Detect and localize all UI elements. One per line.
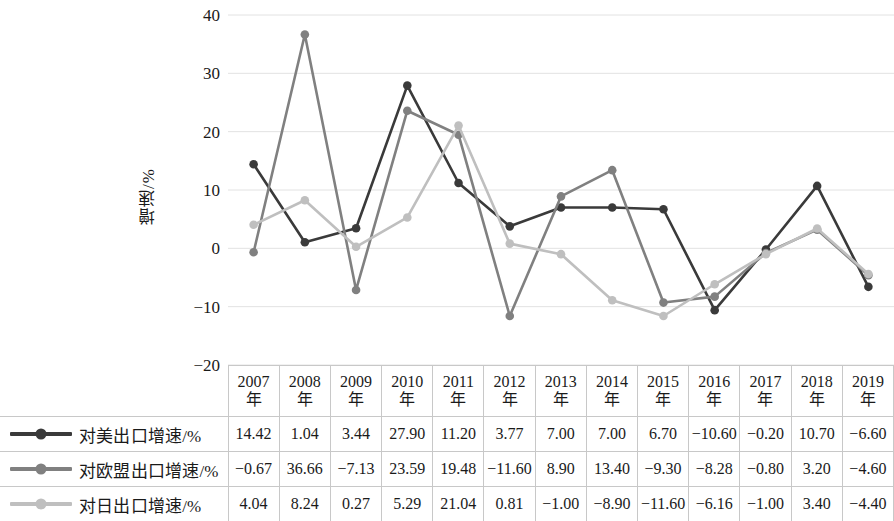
series-line [254, 126, 869, 316]
table-cell-value: 3.20 [791, 452, 842, 487]
data-point-marker [301, 238, 310, 247]
legend-entry-1: 对美出口增速/% [0, 417, 228, 452]
table-year-header: 2010年 [382, 366, 433, 417]
line-chart-svg [228, 0, 894, 365]
data-point-marker [608, 203, 617, 212]
table-cell-value: 11.20 [433, 417, 484, 452]
data-point-marker [454, 179, 463, 188]
data-point-marker [659, 205, 668, 214]
y-tick-label: 30 [160, 65, 220, 82]
table-year-header: 2017年 [740, 366, 791, 417]
data-point-marker [352, 224, 361, 233]
legend-swatch-icon [10, 462, 72, 476]
y-tick-label: −10 [160, 298, 220, 315]
table-year-header: 2015年 [638, 366, 689, 417]
data-point-marker [710, 292, 719, 301]
data-point-marker [659, 298, 668, 307]
data-table-region: 2007年2008年2009年2010年2011年2012年2013年2014年… [0, 365, 894, 521]
table-cell-value: 13.40 [586, 452, 637, 487]
chart-area: 增速/% 403020100−10−20 [0, 0, 894, 365]
data-point-marker [710, 306, 719, 315]
legend-label: 对日出口增速/% [79, 492, 201, 517]
data-point-marker [352, 242, 361, 251]
data-point-marker [301, 30, 310, 39]
table-cell-value: 21.04 [433, 487, 484, 521]
table-cell-value: 4.04 [228, 487, 279, 521]
data-point-marker [301, 196, 310, 205]
table-year-header: 2011年 [433, 366, 484, 417]
legend-entry-3: 对日出口增速/% [0, 487, 228, 521]
table-cell-value: 7.00 [535, 417, 586, 452]
legend-label: 对美出口增速/% [79, 422, 201, 447]
data-point-marker [249, 160, 258, 169]
table-cell-value: 3.77 [484, 417, 535, 452]
data-point-marker [454, 121, 463, 130]
table-cell-value: −6.60 [842, 417, 893, 452]
table-cell-value: −4.60 [842, 452, 893, 487]
table-cell-value: 0.27 [330, 487, 381, 521]
table-cell-value: −1.00 [740, 487, 791, 521]
y-tick-label: 0 [160, 240, 220, 257]
data-point-marker [352, 286, 361, 295]
table-year-header: 2013年 [535, 366, 586, 417]
table-cell-value: −9.30 [638, 452, 689, 487]
table-body: 对美出口增速/%14.421.043.4427.9011.203.777.007… [0, 417, 894, 521]
table-cell-value: −11.60 [638, 487, 689, 521]
y-tick-label: 10 [160, 182, 220, 199]
table-cell-value: 0.81 [484, 487, 535, 521]
table-year-header: 2012年 [484, 366, 535, 417]
table-cell-value: 14.42 [228, 417, 279, 452]
table-cell-value: −0.80 [740, 452, 791, 487]
table-row: 对美出口增速/%14.421.043.4427.9011.203.777.007… [0, 417, 894, 452]
data-point-marker [864, 283, 873, 292]
table-cell-value: −8.90 [586, 487, 637, 521]
y-tick-label: 40 [160, 7, 220, 24]
data-point-marker [608, 166, 617, 175]
table-cell-value: −8.28 [689, 452, 740, 487]
legend-swatch-icon [10, 497, 72, 511]
table-cell-value: 5.29 [382, 487, 433, 521]
plot-canvas [228, 0, 894, 365]
data-point-marker [659, 312, 668, 321]
data-point-marker [249, 220, 258, 229]
data-point-marker [557, 192, 566, 201]
table-cell-value: 3.44 [330, 417, 381, 452]
data-point-marker [813, 224, 822, 233]
table-cell-value: 7.00 [586, 417, 637, 452]
data-point-marker [505, 222, 514, 231]
table-cell-value: 3.40 [791, 487, 842, 521]
data-point-marker [813, 182, 822, 191]
data-point-marker [608, 296, 617, 305]
data-point-marker [403, 81, 412, 90]
table-year-header: 2018年 [791, 366, 842, 417]
legend-entry-2: 对欧盟出口增速/% [0, 452, 228, 487]
data-table: 2007年2008年2009年2010年2011年2012年2013年2014年… [0, 365, 894, 521]
table-year-header: 2016年 [689, 366, 740, 417]
table-year-header: 2009年 [330, 366, 381, 417]
data-point-marker [403, 106, 412, 115]
table-header-row: 2007年2008年2009年2010年2011年2012年2013年2014年… [0, 366, 894, 417]
table-cell-value: 1.04 [279, 417, 330, 452]
table-cell-value: 27.90 [382, 417, 433, 452]
legend-swatch-icon [10, 427, 72, 441]
table-cell-value: −7.13 [330, 452, 381, 487]
data-point-marker [505, 312, 514, 321]
series-line [254, 34, 869, 316]
table-cell-value: 10.70 [791, 417, 842, 452]
y-axis-tick-labels: 403020100−10−20 [160, 0, 220, 365]
table-cell-value: −0.67 [228, 452, 279, 487]
table-cell-value: −0.20 [740, 417, 791, 452]
table-corner-cell [0, 366, 228, 417]
table-cell-value: −4.40 [842, 487, 893, 521]
table-cell-value: −1.00 [535, 487, 586, 521]
table-row: 对欧盟出口增速/%−0.6736.66−7.1323.5919.48−11.60… [0, 452, 894, 487]
table-cell-value: −6.16 [689, 487, 740, 521]
data-point-marker [403, 213, 412, 222]
data-point-marker [710, 280, 719, 289]
table-cell-value: 8.90 [535, 452, 586, 487]
chart-page: 增速/% 403020100−10−20 2007年2008年2009年2010… [0, 0, 894, 521]
data-point-marker [249, 248, 258, 257]
table-year-header: 2008年 [279, 366, 330, 417]
table-cell-value: 6.70 [638, 417, 689, 452]
table-cell-value: 8.24 [279, 487, 330, 521]
